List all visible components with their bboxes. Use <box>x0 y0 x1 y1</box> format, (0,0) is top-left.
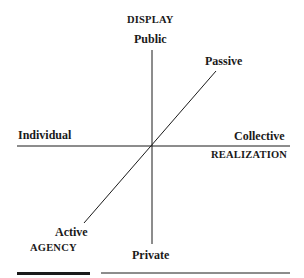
individual-pole-label: Individual <box>18 129 71 141</box>
passive-pole-label: Passive <box>205 55 242 67</box>
active-pole-label: Active <box>55 226 88 238</box>
private-pole-label: Private <box>132 249 169 261</box>
axis-diagram: DISPLAY Public Passive Individual Collec… <box>0 0 304 278</box>
agency-axis-line <box>84 71 216 223</box>
collective-pole-label: Collective <box>234 130 285 142</box>
public-pole-label: Public <box>134 33 167 45</box>
realization-axis-label: REALIZATION <box>211 150 287 161</box>
agency-axis-label: AGENCY <box>30 243 77 254</box>
footer-thick-rule <box>17 272 90 275</box>
display-axis-label: DISPLAY <box>127 15 174 26</box>
